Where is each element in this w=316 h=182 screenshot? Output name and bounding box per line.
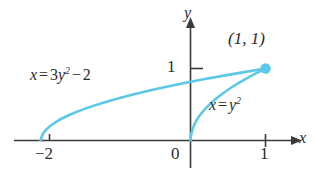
intersection-point-label: (1, 1) — [228, 30, 265, 47]
curve-a-variable: y — [58, 66, 65, 83]
x-axis — [14, 134, 302, 147]
curve-a-operator: − — [70, 66, 83, 83]
origin-label: 0 — [171, 145, 180, 162]
x-tick-label-neg2: −2 — [35, 145, 53, 162]
intersection-point-marker — [260, 63, 270, 73]
curve-a-constant: 2 — [83, 66, 91, 83]
curve-a-coefficient: 3 — [50, 66, 58, 83]
curve-a-equals: = — [37, 66, 50, 83]
curve-b-exponent: 2 — [236, 95, 241, 106]
y-axis — [186, 17, 203, 168]
x-axis-label: x — [299, 130, 306, 146]
curve-b-label: x=y2 — [209, 96, 241, 113]
curve-b-variable: y — [229, 96, 236, 113]
curve-a-label: x=3y2−2 — [30, 66, 91, 83]
y-tick-label-one: 1 — [167, 58, 176, 75]
curve-b-equals: = — [216, 96, 229, 113]
y-axis-label: y — [184, 5, 191, 21]
x-tick-label-one: 1 — [260, 145, 269, 162]
graph-figure: (1, 1) x=3y2−2 x=y2 x y −2 0 1 1 — [0, 0, 316, 182]
